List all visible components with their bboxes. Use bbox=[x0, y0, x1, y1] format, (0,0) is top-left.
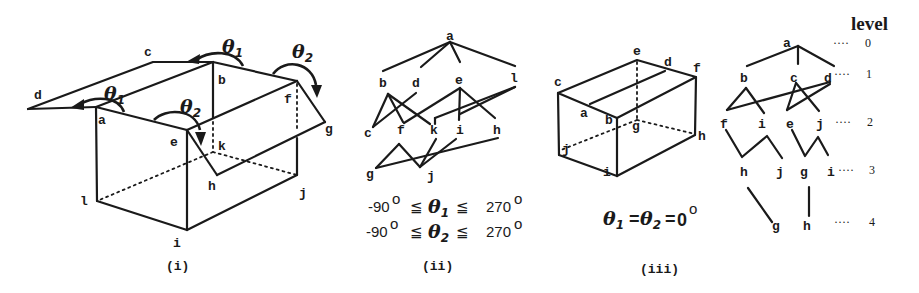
graph-node-f: f bbox=[397, 123, 405, 138]
level-1: 1 bbox=[866, 67, 872, 81]
tree-edge bbox=[798, 46, 834, 66]
flap-left-bottom-edge bbox=[28, 107, 96, 109]
vertex-label-h: h bbox=[208, 179, 216, 194]
tree-node: e bbox=[786, 117, 794, 132]
tree-node: b bbox=[740, 71, 748, 86]
graph-node-a: a bbox=[446, 29, 454, 44]
vertex-label-k: k bbox=[218, 139, 226, 154]
level-4: 4 bbox=[869, 215, 875, 229]
level-leader: ···· bbox=[838, 163, 854, 177]
level-2: 2 bbox=[867, 115, 873, 129]
box-edge-i-j bbox=[187, 175, 297, 230]
vertex-label-e: e bbox=[633, 44, 641, 59]
tree-node: j bbox=[816, 117, 824, 132]
caption-iii: (iii) bbox=[640, 262, 679, 277]
level-leader: ···· bbox=[834, 215, 850, 229]
level-0: 0 bbox=[865, 36, 871, 50]
vertex-label-c: c bbox=[144, 45, 152, 60]
graph-edge bbox=[420, 139, 456, 167]
tree-node: a bbox=[783, 36, 791, 51]
level-3: 3 bbox=[869, 163, 875, 177]
theta2-label-right: θ2 bbox=[292, 40, 313, 65]
svg-text:o: o bbox=[514, 190, 522, 207]
graph-node-g: g bbox=[366, 167, 374, 182]
svg-text:≦: ≦ bbox=[410, 223, 423, 240]
panel-i-open-box: θ1 θ2 θ1 θ2 c d b a f g e k h l j i (i) bbox=[28, 35, 333, 274]
svg-text:θ2: θ2 bbox=[428, 220, 449, 245]
vertex-label-j: j bbox=[299, 186, 307, 201]
svg-text:o: o bbox=[689, 200, 697, 217]
graph-node-h: h bbox=[493, 123, 501, 138]
svg-text:θ1: θ1 bbox=[603, 207, 624, 232]
level-leader: ···· bbox=[834, 67, 850, 81]
hidden-edge-g-h bbox=[637, 120, 695, 134]
level-title: level bbox=[851, 13, 888, 34]
svg-text:=: = bbox=[629, 209, 640, 229]
tree-node: g bbox=[800, 165, 808, 180]
svg-text:=: = bbox=[665, 209, 676, 229]
svg-text:270: 270 bbox=[486, 198, 511, 215]
box-edge-f-h bbox=[695, 77, 696, 135]
graph-edge bbox=[421, 42, 450, 67]
arrow-head-icon bbox=[311, 85, 322, 98]
vertex-label-g: g bbox=[325, 122, 333, 137]
vertex-label-l: l bbox=[80, 194, 88, 209]
svg-text:-90: -90 bbox=[368, 198, 390, 215]
svg-text:≦: ≦ bbox=[410, 198, 423, 215]
vertex-label-e: e bbox=[170, 135, 178, 150]
graph-node-b: b bbox=[379, 76, 387, 91]
hidden-edge-k-l bbox=[97, 152, 213, 201]
tree-node: i bbox=[827, 165, 835, 180]
box-top-face bbox=[558, 60, 696, 118]
panel-ii-graph: a b d e l c f k i h g j -90 o ≦ θ1 ≦ 270… bbox=[364, 29, 522, 274]
vertex-label-h: h bbox=[698, 129, 706, 144]
vertex-label-b: b bbox=[605, 113, 613, 128]
vertex-label-f: f bbox=[693, 61, 701, 76]
level-leader: ···· bbox=[833, 36, 849, 50]
box-edge-l-i bbox=[97, 201, 187, 230]
graph-node-d: d bbox=[412, 76, 420, 91]
svg-text:o: o bbox=[390, 215, 398, 232]
panel-tree-levels: a b c d f i e j h j g i g h level ···· 0… bbox=[720, 13, 888, 234]
graph-node-j: j bbox=[427, 169, 435, 184]
svg-text:o: o bbox=[392, 190, 400, 207]
vertex-label-i: i bbox=[603, 165, 611, 180]
equation-theta-zero: θ1 = θ2 = 0 o bbox=[603, 200, 697, 232]
graph-edge bbox=[460, 87, 515, 114]
theta1-label-left: θ1 bbox=[104, 82, 125, 107]
box-rim-front-right bbox=[187, 81, 297, 130]
vertex-label-d: d bbox=[34, 88, 42, 103]
graph-edge bbox=[404, 88, 460, 123]
svg-text:-90: -90 bbox=[366, 223, 388, 240]
svg-text:o: o bbox=[514, 215, 522, 232]
vertex-label-a: a bbox=[98, 113, 106, 128]
tree-node: j bbox=[776, 165, 784, 180]
panel-iii-closed-box: c e d f a b g h j i θ1 = θ2 = 0 o (iii) bbox=[554, 44, 706, 277]
svg-text:θ1: θ1 bbox=[428, 195, 449, 220]
theta1-label-top: θ1 bbox=[222, 35, 243, 60]
vertex-label-g: g bbox=[632, 119, 640, 134]
graph-node-c: c bbox=[364, 126, 372, 141]
graph-edge bbox=[399, 144, 420, 167]
tree-edge bbox=[792, 130, 828, 156]
box-edge-i-h bbox=[617, 135, 695, 176]
graph-edge bbox=[459, 88, 460, 120]
graph-edge bbox=[435, 87, 515, 118]
vertex-label-j: j bbox=[562, 142, 570, 157]
svg-text:270: 270 bbox=[486, 223, 511, 240]
tree-edge bbox=[748, 188, 772, 222]
vertex-label-a: a bbox=[580, 106, 588, 121]
vertex-label-i: i bbox=[173, 236, 181, 251]
tree-node: c bbox=[790, 71, 798, 86]
tree-node: d bbox=[824, 71, 832, 86]
vertex-label-d: d bbox=[664, 55, 672, 70]
tree-node: h bbox=[740, 165, 748, 180]
svg-text:≦: ≦ bbox=[456, 198, 469, 215]
tree-node: h bbox=[803, 219, 811, 234]
svg-text:≦: ≦ bbox=[456, 223, 469, 240]
tree-node: f bbox=[720, 117, 728, 132]
tree-node: i bbox=[758, 117, 766, 132]
caption-ii: (ii) bbox=[422, 259, 453, 274]
vertex-label-c: c bbox=[554, 75, 562, 90]
tree-node: g bbox=[772, 219, 780, 234]
